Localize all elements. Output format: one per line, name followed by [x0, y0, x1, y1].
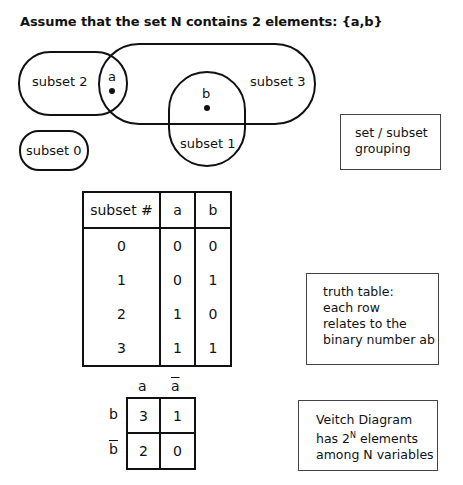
veitch-col-label-a: a: [138, 378, 147, 394]
table-cell: 1: [83, 263, 160, 297]
header-a: a: [160, 192, 195, 228]
element-a-label: a: [108, 69, 116, 84]
table-cell: 2: [83, 297, 160, 331]
table-cell: 3: [83, 331, 160, 366]
truth-table-header: subset # a b: [83, 192, 231, 228]
veitch-note-line: among N variables: [316, 447, 437, 463]
grouping-note-line: set / subset: [355, 125, 440, 141]
truth-table-note: truth table: each row relates to the bin…: [306, 273, 439, 365]
table-cell: 0: [83, 228, 160, 263]
truth-table-note-line: each row: [323, 300, 438, 316]
table-cell: 0: [195, 297, 231, 331]
veitch-note-line: Veitch Diagram: [316, 412, 437, 428]
veitch-cell: 0: [161, 434, 194, 468]
element-a-dot: [109, 88, 115, 94]
veitch-cell: 1: [161, 399, 194, 434]
grouping-note-line: grouping: [355, 141, 440, 157]
table-cell: 1: [195, 331, 231, 366]
grouping-note: set / subset grouping: [340, 114, 441, 170]
truth-table-note-line: binary number ab: [323, 332, 438, 348]
subset2-label: subset 2: [32, 74, 88, 89]
veitch-cell: 3: [128, 399, 161, 434]
truth-table: subset # a b 0 0 0 1 0 1 2 1 0 3 1 1: [82, 191, 232, 367]
veitch-note-text: elements: [356, 431, 418, 446]
subset0-label: subset 0: [26, 143, 82, 158]
element-b-label: b: [202, 86, 210, 101]
veitch-note: Veitch Diagram has 2N elements among N v…: [298, 400, 438, 471]
veitch-row-label-not-b: b: [109, 441, 118, 457]
header-subset-number: subset #: [83, 192, 160, 228]
table-cell: 0: [160, 228, 195, 263]
table-cell: 0: [195, 228, 231, 263]
table-row: 3 1 1: [83, 331, 231, 366]
header-b: b: [195, 192, 231, 228]
truth-table-note-line: relates to the: [323, 316, 438, 332]
truth-table-note-line: truth table:: [323, 284, 438, 300]
table-row: 0 0 0: [83, 228, 231, 263]
veitch-note-line: has 2N elements: [316, 428, 437, 447]
veitch-diagram: 3 1 2 0: [126, 397, 196, 470]
table-cell: 1: [195, 263, 231, 297]
table-row: 2 1 0: [83, 297, 231, 331]
veitch-cell: 2: [128, 434, 161, 468]
subset1-label: subset 1: [180, 136, 236, 151]
table-cell: 0: [160, 263, 195, 297]
table-row: 1 0 1: [83, 263, 231, 297]
veitch-note-text: has 2: [316, 431, 350, 446]
table-cell: 1: [160, 297, 195, 331]
element-b-dot: [204, 105, 210, 111]
table-cell: 1: [160, 331, 195, 366]
subset3-label: subset 3: [250, 74, 306, 89]
veitch-col-label-not-a: a: [171, 378, 180, 394]
veitch-row-label-b: b: [109, 406, 118, 422]
